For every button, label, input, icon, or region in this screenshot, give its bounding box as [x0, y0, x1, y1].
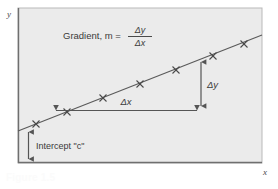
gradient-numerator: Δy: [134, 25, 146, 35]
delta-x-label: Δx: [119, 96, 132, 107]
y-axis-label: y: [6, 9, 11, 19]
intercept-label: Intercept "c": [36, 141, 84, 151]
x-axis-label: x: [262, 167, 267, 177]
figure-caption: Figure 1.5: [6, 172, 55, 183]
figure-container: Gradient, m = Δy Δx Δy Δx Intercept "c" …: [0, 0, 278, 189]
gradient-formula-label: Gradient, m =: [63, 30, 121, 41]
gradient-denominator: Δx: [134, 38, 146, 48]
gradient-intercept-diagram: Gradient, m = Δy Δx Δy Δx Intercept "c" …: [0, 0, 278, 189]
delta-y-label: Δy: [206, 79, 219, 90]
